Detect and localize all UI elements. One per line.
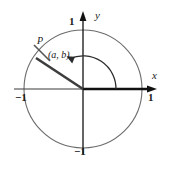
x-axis-tick-label-negative-one: −1 [15,92,27,103]
unit-circle-figure: y x 1 1 −1 −1 P (a, b) [0,0,171,172]
y-axis-arrow-icon [80,11,87,21]
x-axis-label: x [152,70,157,81]
terminal-ray [36,58,83,89]
x-axis-tick-label-positive-one: 1 [148,92,154,103]
point-p-label: P [37,36,43,46]
point-coordinates-label: (a, b) [48,50,70,60]
y-axis-tick-label-negative-one: −1 [74,146,86,157]
y-axis-label: y [95,10,100,21]
y-axis-tick-label-positive-one: 1 [69,16,75,27]
